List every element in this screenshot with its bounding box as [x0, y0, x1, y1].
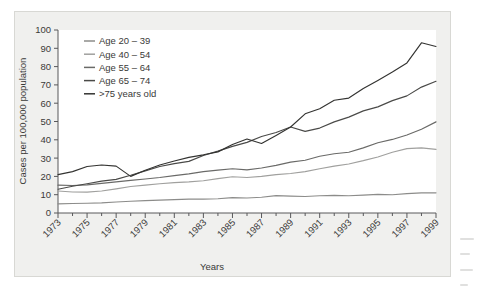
caption-mark-line — [460, 284, 468, 286]
y-tick-label: 0 — [46, 207, 51, 218]
y-axis-ticks — [54, 30, 58, 213]
legend-label-2: Age 40 – 54 — [99, 49, 150, 60]
y-tick-label: 90 — [40, 43, 51, 54]
x-axis-tick-labels: 1973197519771979198119831985198719891991… — [40, 217, 441, 240]
x-tick-label: 1975 — [69, 217, 92, 240]
x-tick-label: 1979 — [127, 217, 150, 240]
x-tick-label: 1995 — [360, 217, 383, 240]
y-tick-label: 40 — [40, 134, 51, 145]
y-tick-label: 20 — [40, 171, 51, 182]
y-tick-label: 10 — [40, 189, 51, 200]
x-axis-title: Years — [200, 261, 224, 272]
y-axis-title: Cases per 100,000 population — [17, 58, 28, 185]
x-tick-label: 1985 — [215, 217, 238, 240]
y-tick-label: 100 — [35, 24, 51, 35]
y-axis-tick-labels: 0102030405060708090100 — [35, 24, 51, 218]
y-tick-label: 30 — [40, 153, 51, 164]
x-tick-label: 1987 — [244, 217, 267, 240]
legend-label-1: Age 20 – 39 — [99, 35, 150, 46]
caption-marks — [460, 238, 476, 286]
legend-label-5: >75 years old — [99, 88, 156, 99]
y-tick-label: 50 — [40, 116, 51, 127]
y-tick-label: 60 — [40, 98, 51, 109]
y-tick-label: 70 — [40, 79, 51, 90]
caption-mark-line — [460, 269, 473, 271]
x-tick-label: 1983 — [186, 217, 209, 240]
figure-container: 0102030405060708090100 19731975197719791… — [0, 0, 478, 289]
x-tick-label: 1997 — [389, 217, 412, 240]
caption-mark-line — [460, 253, 470, 255]
x-tick-label: 1999 — [418, 217, 441, 240]
x-tick-label: 1991 — [302, 217, 325, 240]
x-tick-label: 1993 — [331, 217, 354, 240]
x-axis-ticks — [58, 213, 436, 218]
line-chart: 0102030405060708090100 19731975197719791… — [0, 0, 478, 289]
caption-mark-line — [460, 238, 474, 240]
x-tick-label: 1973 — [40, 217, 63, 240]
x-tick-label: 1989 — [273, 217, 296, 240]
legend-label-4: Age 65 – 74 — [99, 75, 150, 86]
x-tick-label: 1981 — [156, 217, 179, 240]
legend-label-3: Age 55 – 64 — [99, 62, 150, 73]
y-tick-label: 80 — [40, 61, 51, 72]
x-tick-label: 1977 — [98, 217, 121, 240]
